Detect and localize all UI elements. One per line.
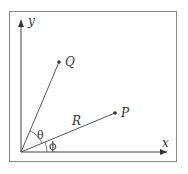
segment-r-label: R — [71, 114, 81, 128]
point-p-label: P — [120, 106, 130, 120]
angle-phi-arc — [45, 142, 47, 152]
theta-label: θ — [37, 129, 44, 142]
vector-diagram: y x Q P R θ ϕ — [0, 0, 188, 174]
point-q-label: Q — [65, 55, 75, 69]
point-p-dot — [113, 111, 117, 115]
y-axis-label: y — [27, 14, 35, 28]
frame — [10, 12, 177, 162]
x-axis-label: x — [162, 136, 169, 150]
phi-label: ϕ — [49, 140, 57, 153]
point-q-dot — [57, 60, 61, 64]
